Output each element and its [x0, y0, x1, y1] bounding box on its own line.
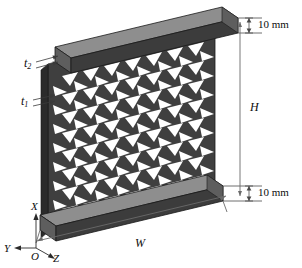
label-height-H: H	[250, 101, 259, 113]
axis-label-z: Z	[53, 253, 59, 264]
dimension-height	[238, 22, 242, 196]
axis-label-y: Y	[4, 243, 10, 254]
label-width-W: W	[135, 237, 145, 249]
axis-label-origin: O	[31, 251, 39, 262]
figure-canvas: 10 mm 10 mm H W t2 t1 X Y Z O	[0, 0, 302, 268]
diagram-svg	[0, 0, 302, 268]
label-thickness-t2-subscript: 2	[27, 62, 31, 71]
dimension-bottom-plate	[223, 186, 262, 201]
label-thickness-t2: t2	[24, 57, 31, 71]
axis-label-x: X	[31, 201, 38, 212]
label-top-plate-thickness: 10 mm	[258, 19, 289, 30]
label-thickness-t1-subscript: 1	[24, 100, 28, 109]
label-thickness-t1: t1	[21, 95, 28, 109]
label-bottom-plate-thickness: 10 mm	[258, 187, 289, 198]
